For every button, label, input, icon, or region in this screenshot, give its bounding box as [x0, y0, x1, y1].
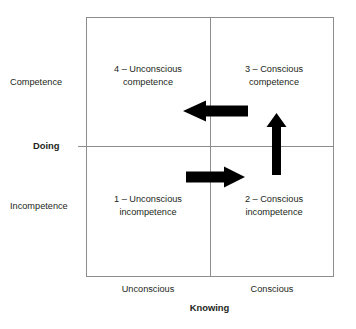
x-axis-title: Knowing	[190, 302, 230, 313]
x-axis-title-wrap: Knowing	[0, 302, 356, 313]
quadrant-3-line2: competence	[215, 76, 333, 89]
quadrant-4-label: 4 – Unconscious competence	[89, 63, 207, 88]
x-axis-tick-conscious: Conscious	[217, 284, 327, 294]
x-axis-tick-unconscious: Unconscious	[93, 284, 203, 294]
y-axis-tick-incompetence: Incompetence	[10, 200, 88, 212]
diagram-canvas: 4 – Unconscious competence 3 – Conscious…	[0, 0, 356, 329]
quadrant-1-label: 1 – Unconscious incompetence	[89, 193, 207, 218]
quadrant-1-line2: incompetence	[89, 206, 207, 219]
quadrant-2-label: 2 – Conscious incompetence	[215, 193, 333, 218]
quadrant-3-label: 3 – Conscious competence	[215, 63, 333, 88]
quadrant-1-line1: 1 – Unconscious	[89, 193, 207, 206]
quadrant-4-line1: 4 – Unconscious	[89, 63, 207, 76]
quadrant-2-line2: incompetence	[215, 206, 333, 219]
vertical-divider	[210, 17, 211, 277]
quadrant-4-line2: competence	[89, 76, 207, 89]
quadrant-3-line1: 3 – Conscious	[215, 63, 333, 76]
quadrant-2-line1: 2 – Conscious	[215, 193, 333, 206]
y-axis-title: Doing	[33, 140, 60, 151]
y-axis-tick-competence: Competence	[10, 76, 88, 88]
y-axis-tick	[78, 146, 87, 147]
horizontal-divider	[86, 146, 334, 147]
